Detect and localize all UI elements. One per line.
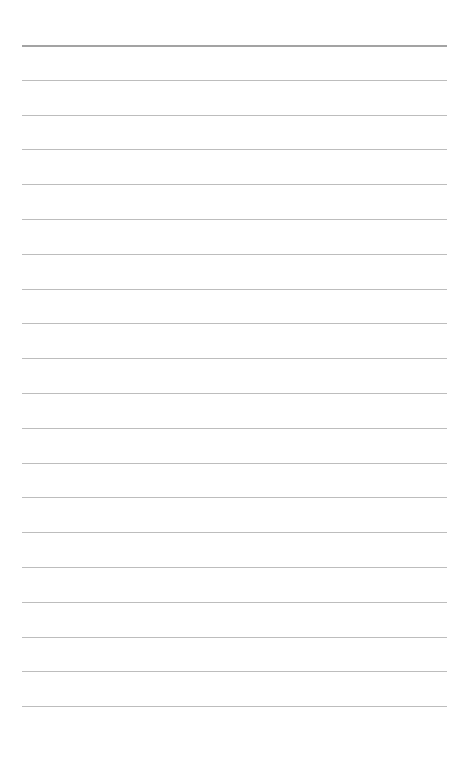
ruled-line — [22, 428, 447, 429]
ruled-line — [22, 149, 447, 150]
ruled-line — [22, 358, 447, 359]
ruled-line — [22, 219, 447, 220]
ruled-line — [22, 289, 447, 290]
ruled-line — [22, 115, 447, 116]
ruled-line — [22, 254, 447, 255]
ruled-line — [22, 463, 447, 464]
ruled-line — [22, 706, 447, 707]
ruled-line — [22, 323, 447, 324]
header-rule — [22, 45, 447, 47]
ruled-line — [22, 671, 447, 672]
ruled-line — [22, 184, 447, 185]
ruled-line — [22, 637, 447, 638]
notebook-page — [0, 0, 464, 783]
ruled-line — [22, 602, 447, 603]
ruled-line — [22, 80, 447, 81]
ruled-line — [22, 497, 447, 498]
ruled-line — [22, 567, 447, 568]
ruled-line — [22, 393, 447, 394]
ruled-line — [22, 532, 447, 533]
